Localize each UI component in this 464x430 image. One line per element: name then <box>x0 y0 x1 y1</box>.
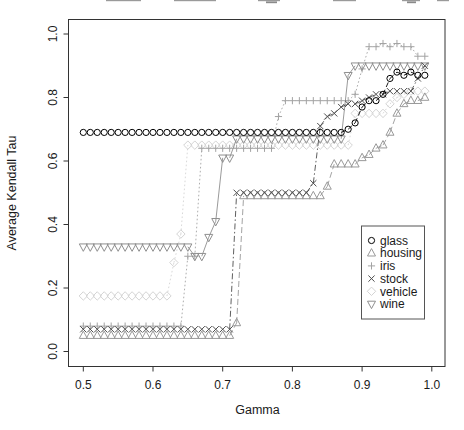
plus-marker-icon <box>184 253 191 260</box>
x-marker-icon <box>352 101 358 107</box>
x-marker-icon <box>338 104 344 110</box>
circle-marker-icon <box>178 129 184 135</box>
triangle-up-marker-icon <box>344 160 352 167</box>
x-tick-label: 0.9 <box>354 378 371 392</box>
y-tick-label: 0.2 <box>46 279 60 296</box>
triangle-down-marker-icon <box>86 244 94 251</box>
circle-marker-icon <box>331 129 337 135</box>
triangle-down-marker-icon <box>323 136 331 143</box>
circle-marker-icon <box>101 129 107 135</box>
triangle-down-marker-icon <box>149 244 157 251</box>
circle-marker-icon <box>296 129 302 135</box>
plus-marker-icon <box>331 97 338 104</box>
x-tick-label: 0.7 <box>214 378 231 392</box>
series-glass <box>80 69 428 136</box>
plus-marker-icon <box>407 43 414 50</box>
circle-marker-icon <box>122 129 128 135</box>
plus-marker-icon <box>400 43 407 50</box>
plus-marker-icon <box>296 97 303 104</box>
plus-marker-icon <box>254 145 261 152</box>
circle-marker-icon <box>164 129 170 135</box>
x-marker-icon <box>387 88 393 94</box>
circle-marker-icon <box>227 129 233 135</box>
triangle-down-marker-icon <box>386 63 394 70</box>
circle-marker-icon <box>192 129 198 135</box>
plus-marker-icon <box>261 145 268 152</box>
series-connector-line <box>411 47 418 57</box>
triangle-down-marker-icon <box>163 244 171 251</box>
cropped-title-fragments <box>106 0 449 3</box>
triangle-down-marker-icon <box>93 244 101 251</box>
triangle-down-marker-icon <box>100 244 108 251</box>
circle-marker-icon <box>282 129 288 135</box>
circle-marker-icon <box>129 129 135 135</box>
circle-marker-icon <box>199 129 205 135</box>
cropped-title-mark <box>333 0 356 1</box>
cropped-title-mark <box>174 0 216 1</box>
circle-marker-icon <box>143 129 149 135</box>
plus-marker-icon <box>365 43 372 50</box>
triangle-down-marker-icon <box>274 136 282 143</box>
triangle-down-marker-icon <box>79 244 87 251</box>
y-tick-label: 0.8 <box>46 89 60 106</box>
series-connector-line <box>411 78 418 91</box>
series-connector-line <box>355 69 362 94</box>
series-connector-line <box>383 104 390 114</box>
series-connector-line <box>237 196 244 323</box>
legend-item-label: wine <box>379 297 405 311</box>
circle-marker-icon <box>220 129 226 135</box>
plus-marker-icon <box>421 53 428 60</box>
plus-marker-icon <box>414 53 421 60</box>
cropped-title-descender-mark <box>407 1 416 3</box>
plus-marker-icon <box>372 43 379 50</box>
triangle-down-marker-icon <box>156 244 164 251</box>
triangle-down-marker-icon <box>281 136 289 143</box>
series-connector-line <box>362 47 369 69</box>
triangle-up-marker-icon <box>309 191 317 198</box>
cropped-title-mark <box>258 0 280 1</box>
triangle-down-marker-icon <box>198 253 206 260</box>
triangle-down-marker-icon <box>261 136 269 143</box>
circle-marker-icon <box>150 129 156 135</box>
plus-marker-icon <box>205 145 212 152</box>
x-marker-icon <box>324 113 330 119</box>
triangle-down-marker-icon <box>400 63 408 70</box>
triangle-down-marker-icon <box>135 244 143 251</box>
triangle-down-marker-icon <box>372 63 380 70</box>
series-connector-line <box>216 158 223 222</box>
y-axis-title: Average Kendall Tau <box>5 136 19 251</box>
circle-marker-icon <box>115 129 121 135</box>
plus-marker-icon <box>247 145 254 152</box>
figure-canvas: 0.50.60.70.80.91.0 0.00.20.40.60.81.0 gl… <box>0 0 464 430</box>
series-connector-line <box>313 126 320 183</box>
circle-marker-icon <box>254 129 260 135</box>
circle-marker-icon <box>206 129 212 135</box>
triangle-up-marker-icon <box>337 160 345 167</box>
circle-marker-icon <box>171 129 177 135</box>
y-tick-label: 0.0 <box>46 343 60 360</box>
plus-marker-icon <box>240 145 247 152</box>
plus-marker-icon <box>282 97 289 104</box>
circle-marker-icon <box>422 72 428 78</box>
circle-marker-icon <box>247 129 253 135</box>
x-marker-icon <box>373 91 379 97</box>
triangle-down-marker-icon <box>302 136 310 143</box>
series-connector-line <box>278 101 285 117</box>
plus-marker-icon <box>317 97 324 104</box>
triangle-up-marker-icon <box>330 160 338 167</box>
series-connector-line <box>230 193 237 330</box>
triangle-down-marker-icon <box>121 244 129 251</box>
series-connector-line <box>181 256 188 326</box>
x-marker-icon <box>359 98 365 104</box>
plus-marker-icon <box>386 43 393 50</box>
plus-marker-icon <box>303 97 310 104</box>
x-axis-title: Gamma <box>235 403 280 417</box>
circle-marker-icon <box>157 129 163 135</box>
circle-marker-icon <box>136 129 142 135</box>
triangle-down-marker-icon <box>414 63 422 70</box>
circle-marker-icon <box>213 129 219 135</box>
plus-marker-icon <box>219 145 226 152</box>
circle-marker-icon <box>108 129 114 135</box>
series-connector-line <box>167 263 174 296</box>
x-marker-icon <box>331 110 337 116</box>
